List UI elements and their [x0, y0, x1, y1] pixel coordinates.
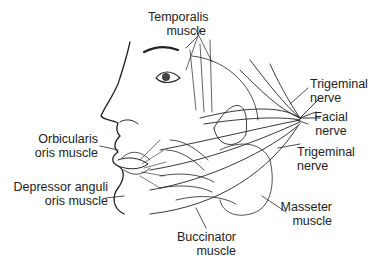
label-line: Trigeminal — [297, 145, 355, 159]
label-line: Masseter — [272, 200, 332, 214]
label-line: Orbicularis — [20, 132, 98, 146]
label-line: muscle — [272, 214, 332, 228]
label-line: Buccinator — [176, 230, 236, 244]
label-line: oris muscle — [20, 146, 98, 160]
label-line: muscle — [148, 24, 206, 38]
label-line: nerve — [310, 91, 368, 105]
eyebrow — [144, 47, 178, 52]
label-trigeminal-nerve-lower: Trigeminal nerve — [297, 145, 355, 173]
label-line: nerve — [297, 159, 355, 173]
label-trigeminal-nerve-upper: Trigeminal nerve — [310, 77, 368, 105]
label-facial-nerve: Facial nerve — [309, 110, 353, 138]
label-line: nerve — [309, 124, 353, 138]
label-line: Depressor anguli — [8, 180, 108, 194]
label-line: muscle — [176, 244, 236, 258]
label-line: oris muscle — [8, 194, 108, 208]
label-depressor-anguli-oris-muscle: Depressor anguli oris muscle — [8, 180, 108, 208]
label-buccinator-muscle: Buccinator muscle — [176, 230, 236, 258]
label-line: Trigeminal — [310, 77, 368, 91]
label-line: Facial — [309, 110, 353, 124]
label-orbicularis-oris-muscle: Orbicularis oris muscle — [20, 132, 98, 160]
label-temporalis-muscle: Temporalis muscle — [148, 10, 206, 38]
label-line: Temporalis — [148, 10, 206, 24]
label-masseter-muscle: Masseter muscle — [272, 200, 332, 228]
